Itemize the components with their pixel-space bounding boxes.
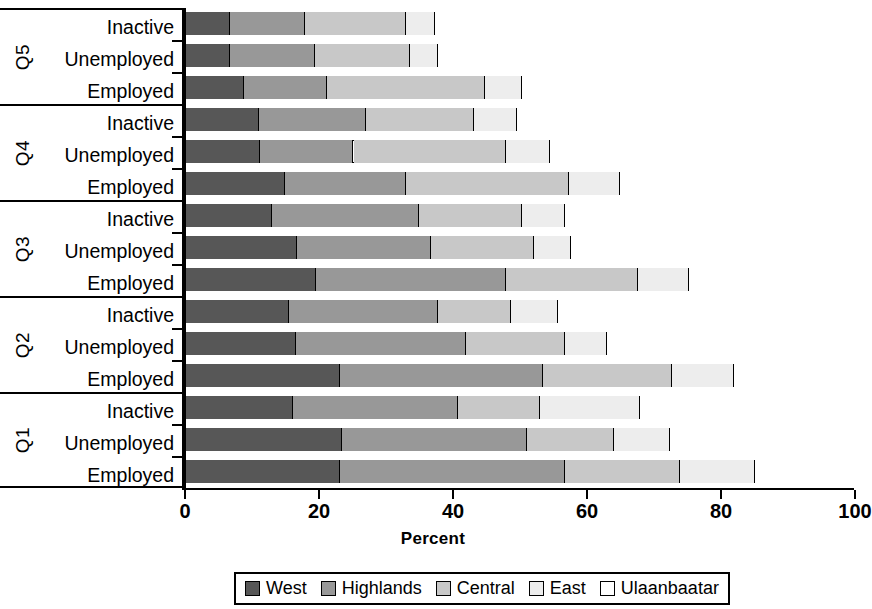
segment-ulaanbaatar [670,428,856,451]
segment-ulaanbaatar [550,140,856,163]
group-label-q1: Q1 [6,394,40,486]
segment-east [672,364,734,387]
legend-swatch-west [245,581,260,596]
x-axis-tick-label: 60 [576,500,598,523]
group-label-q4: Q4 [6,106,40,200]
segment-east [638,268,690,291]
legend-item-east: East [529,578,586,599]
segment-central [354,140,507,163]
segment-ulaanbaatar [734,364,856,387]
quintile-group-q4: Q4InactiveUnemployedEmployed [0,104,182,200]
category-label-q5-inactive: Inactive [107,11,174,43]
segment-central [506,268,638,291]
legend-label-west: West [266,578,307,599]
segment-highlands [297,236,431,259]
segment-central [327,76,485,99]
segment-ulaanbaatar [517,108,856,131]
quintile-group-q2: Q2InactiveUnemployedEmployed [0,296,182,392]
segment-central [431,236,535,259]
segment-west [186,396,293,419]
legend-label-central: Central [457,578,515,599]
segment-highlands [259,108,366,131]
segment-west [186,204,272,227]
segment-east [406,12,435,35]
category-label-q3-unemployed: Unemployed [65,235,174,267]
x-axis-tick [452,490,454,499]
bar-q5-employed [186,76,856,99]
group-label-text: Q5 [12,44,34,70]
legend-item-highlands: Highlands [321,578,422,599]
segment-ulaanbaatar [571,236,856,259]
segment-ulaanbaatar [620,172,856,195]
plot-area [184,8,856,488]
segment-east [540,396,641,419]
segment-ulaanbaatar [640,396,856,419]
category-label-column: Q5InactiveUnemployedEmployedQ4InactiveUn… [0,8,182,488]
segment-central [527,428,614,451]
segment-ulaanbaatar [607,332,856,355]
bar-q3-employed [186,268,856,291]
category-label-q5-unemployed: Unemployed [65,43,174,75]
segment-highlands [230,44,314,67]
category-label-q1-unemployed: Unemployed [65,427,174,459]
segment-highlands [340,364,543,387]
segment-highlands [293,396,458,419]
bar-q4-inactive [186,108,856,131]
x-axis-tick [318,490,320,499]
legend-label-highlands: Highlands [342,578,422,599]
segment-west [186,76,244,99]
segment-east [534,236,570,259]
x-axis-tick [184,490,186,499]
segment-central [458,396,540,419]
segment-west [186,300,289,323]
segment-west [186,364,340,387]
x-axis-tick-label: 80 [710,500,732,523]
segment-east [485,76,523,99]
segment-east [614,428,670,451]
y-axis-minor-tick [172,136,183,138]
segment-highlands [296,332,466,355]
group-label-text: Q4 [12,140,34,166]
segment-west [186,140,260,163]
segment-ulaanbaatar [435,12,856,35]
bar-q1-unemployed [186,428,856,451]
category-label-q4-unemployed: Unemployed [65,139,174,171]
y-axis-minor-tick [172,360,183,362]
segment-highlands [244,76,326,99]
x-axis-title: Percent [0,529,866,549]
legend-swatch-east [529,581,544,596]
category-label-q1-employed: Employed [87,459,174,491]
segment-east [569,172,621,195]
segment-west [186,108,259,131]
segment-central [315,44,411,67]
y-axis-minor-tick [172,232,183,234]
segment-west [186,460,340,483]
segment-east [565,332,607,355]
y-axis-minor-tick [172,424,183,426]
segment-highlands [289,300,438,323]
segment-central [419,204,522,227]
segment-east [506,140,550,163]
y-axis-minor-tick [172,40,183,42]
segment-central [565,460,680,483]
y-axis-minor-tick [172,456,183,458]
bar-q5-inactive [186,12,856,35]
segment-ulaanbaatar [522,76,856,99]
segment-east [474,108,517,131]
chart-legend: WestHighlandsCentralEastUlaanbaatar [234,572,730,605]
legend-label-east: East [550,578,586,599]
group-label-text: Q3 [12,236,34,262]
x-axis-tick [586,490,588,499]
legend-item-west: West [245,578,307,599]
bar-q1-inactive [186,396,856,419]
segment-central [543,364,672,387]
segment-east [410,44,437,67]
bar-q1-employed [186,460,856,483]
category-label-q2-inactive: Inactive [107,299,174,331]
segment-highlands [230,12,306,35]
x-axis-tick [854,490,856,499]
segment-west [186,428,342,451]
segment-highlands [340,460,565,483]
y-axis-minor-tick [172,264,183,266]
segment-central [466,332,565,355]
